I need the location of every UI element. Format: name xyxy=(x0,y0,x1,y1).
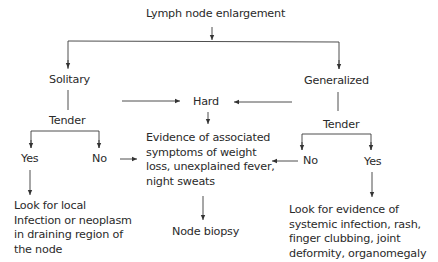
node-generalized: Generalized xyxy=(304,74,369,88)
node-no-left: No xyxy=(92,152,107,166)
node-evidence-of-symptoms: Evidence of associated symptoms of weigh… xyxy=(146,131,275,189)
node-node-biopsy: Node biopsy xyxy=(172,225,239,239)
node-look-for-local: Look for local Infection or neoplasm in … xyxy=(14,199,132,257)
node-no-right: No xyxy=(303,154,318,168)
node-tender-left: Tender xyxy=(49,114,85,128)
node-hard: Hard xyxy=(193,95,219,109)
node-look-for-systemic: Look for evidence of systemic infection,… xyxy=(289,203,426,261)
node-solitary: Solitary xyxy=(49,73,90,87)
node-tender-right: Tender xyxy=(323,118,359,132)
node-lymph-node-enlargement: Lymph node enlargement xyxy=(146,7,285,21)
node-yes-right: Yes xyxy=(364,155,381,169)
node-yes-left: Yes xyxy=(21,152,38,166)
